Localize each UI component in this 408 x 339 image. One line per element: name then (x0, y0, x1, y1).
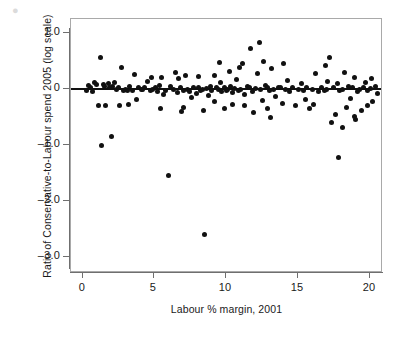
data-point (342, 70, 347, 75)
data-point (90, 89, 95, 94)
data-point (352, 75, 357, 80)
scan-artifact-icon: ● (12, 2, 30, 18)
data-point (311, 102, 316, 107)
data-point (161, 92, 166, 97)
data-point (299, 81, 304, 86)
data-point (201, 108, 206, 113)
data-point (103, 103, 108, 108)
data-point (212, 99, 217, 104)
data-point (158, 106, 163, 111)
data-point (175, 90, 180, 95)
data-point (261, 59, 266, 64)
data-point (348, 96, 353, 101)
data-point (324, 87, 329, 92)
data-point (149, 75, 154, 80)
data-point (130, 88, 135, 93)
data-point (273, 94, 278, 99)
data-point (269, 66, 274, 71)
data-point (257, 40, 262, 45)
data-point (296, 87, 301, 92)
data-point (187, 89, 192, 94)
data-point (336, 155, 341, 160)
data-point (242, 103, 247, 108)
x-axis-tick (82, 272, 83, 278)
data-points-layer (71, 19, 381, 271)
scatter-plot-figure: ● 1.00–1.0–2.0–3.0 05101520 Labour % mar… (0, 0, 408, 339)
data-point (107, 85, 112, 90)
data-point (140, 87, 145, 92)
data-point (333, 112, 338, 117)
x-axis-title: Labour % margin, 2001 (70, 303, 383, 315)
data-point (234, 77, 239, 82)
data-point (242, 92, 247, 97)
data-point (335, 81, 340, 86)
data-point (183, 73, 188, 78)
data-point (373, 84, 378, 89)
data-point (323, 63, 328, 68)
data-point (251, 110, 256, 115)
data-point (237, 65, 242, 70)
data-point (132, 72, 137, 77)
data-point (287, 89, 292, 94)
y-axis-tick (63, 144, 69, 145)
data-point (304, 85, 309, 90)
data-point (258, 87, 263, 92)
data-point (117, 103, 122, 108)
x-axis-tick-label: 15 (277, 281, 317, 293)
x-axis-tick (225, 272, 226, 278)
data-point (278, 85, 283, 90)
data-point (176, 76, 181, 81)
data-point (316, 89, 321, 94)
y-axis-tick (63, 32, 69, 33)
data-point (293, 103, 298, 108)
plot-area (70, 18, 382, 272)
data-point (163, 88, 168, 93)
data-point (370, 99, 375, 104)
data-point (303, 97, 308, 102)
data-point (212, 73, 217, 78)
data-point (157, 83, 162, 88)
data-point (84, 88, 89, 93)
data-point (145, 79, 150, 84)
data-point (365, 103, 370, 108)
x-axis-tick-label: 10 (205, 281, 245, 293)
data-point (159, 75, 164, 80)
y-axis-tick (63, 200, 69, 201)
data-point (359, 108, 364, 113)
data-point (96, 103, 101, 108)
data-point (344, 105, 349, 110)
data-point (329, 120, 334, 125)
data-point (340, 125, 345, 130)
data-point (281, 61, 286, 66)
x-axis-tick-label: 20 (349, 281, 389, 293)
data-point (94, 82, 99, 87)
data-point (331, 85, 336, 90)
data-point (99, 143, 104, 148)
x-axis-tick (369, 272, 370, 278)
data-point (206, 93, 211, 98)
data-point (238, 87, 243, 92)
data-point (134, 97, 139, 102)
data-point (285, 78, 290, 83)
data-point (310, 87, 315, 92)
data-point (327, 55, 332, 60)
data-point (222, 106, 227, 111)
data-point (196, 74, 201, 79)
data-point (202, 232, 207, 237)
data-point (189, 95, 194, 100)
x-axis-tick (297, 272, 298, 278)
x-axis-tick-label: 0 (62, 281, 102, 293)
data-point (255, 71, 260, 76)
data-point (265, 106, 270, 111)
data-point (181, 105, 186, 110)
x-axis-tick-label: 5 (133, 281, 173, 293)
data-point (313, 71, 318, 76)
data-point (248, 46, 253, 51)
data-point (218, 80, 223, 85)
data-point (375, 91, 380, 96)
data-point (109, 134, 114, 139)
y-axis-tick (63, 88, 69, 89)
data-point (227, 69, 232, 74)
x-axis-line (70, 272, 383, 273)
data-point (173, 70, 178, 75)
